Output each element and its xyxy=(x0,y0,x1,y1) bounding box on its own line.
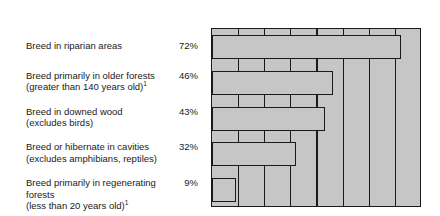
bar xyxy=(212,178,236,202)
footnote-marker: 1 xyxy=(143,80,147,87)
category-label-line2: (less than 20 years old) xyxy=(26,200,125,211)
footnote-marker: 1 xyxy=(125,199,129,206)
bar xyxy=(212,71,333,95)
category-row: Breed or hibernate in cavities(excludes … xyxy=(0,141,202,164)
category-label-line1: Breed or hibernate in cavities xyxy=(26,141,149,152)
value-label: 46% xyxy=(168,70,202,81)
category-label: Breed or hibernate in cavities(excludes … xyxy=(0,141,168,164)
category-label: Breed in downed wood(excludes birds) xyxy=(0,106,168,129)
category-label-line2: (excludes birds) xyxy=(26,117,93,128)
category-row: Breed primarily in older forests(greater… xyxy=(0,70,202,93)
category-row: Breed in downed wood(excludes birds)43% xyxy=(0,106,202,129)
value-label: 9% xyxy=(168,177,202,188)
value-label: 43% xyxy=(168,106,202,117)
category-label-line1: Breed in riparian areas xyxy=(26,40,122,51)
category-label: Breed in riparian areas xyxy=(0,40,168,51)
category-label: Breed primarily in regenerating forests(… xyxy=(0,177,168,211)
category-label: Breed primarily in older forests(greater… xyxy=(0,70,168,93)
bar xyxy=(212,107,325,131)
category-label-line2: (excludes amphibians, reptiles) xyxy=(26,153,157,164)
category-label-line2: (greater than 140 years old) xyxy=(26,81,143,92)
value-label: 32% xyxy=(168,141,202,152)
value-label: 72% xyxy=(168,40,202,51)
category-label-line1: Breed primarily in older forests xyxy=(26,70,155,81)
plot-area xyxy=(211,28,421,207)
bar xyxy=(212,142,296,166)
category-row: Breed primarily in regenerating forests(… xyxy=(0,177,202,211)
category-row: Breed in riparian areas72% xyxy=(0,40,202,51)
category-label-line1: Breed in downed wood xyxy=(26,106,123,117)
category-label-line1: Breed primarily in regenerating forests xyxy=(26,177,156,199)
bar xyxy=(212,35,401,59)
horizontal-bar-chart: Breed in riparian areas72%Breed primaril… xyxy=(0,0,440,216)
